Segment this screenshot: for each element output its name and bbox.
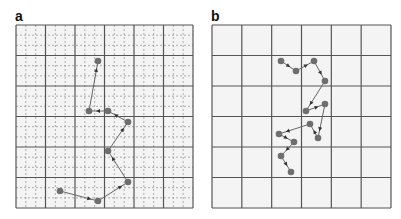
walk-point	[291, 139, 298, 146]
walk-point	[288, 169, 295, 176]
walk-point	[315, 135, 322, 142]
walk-point	[322, 78, 329, 85]
walk-point	[276, 131, 283, 138]
panel-b-grid-walk	[0, 0, 401, 219]
walk-point	[278, 58, 285, 65]
walk-point	[322, 101, 329, 108]
walk-point	[293, 68, 300, 75]
walk-point	[278, 153, 285, 160]
walk-point	[311, 58, 318, 65]
walk-point	[303, 108, 310, 115]
walk-point	[307, 121, 314, 128]
